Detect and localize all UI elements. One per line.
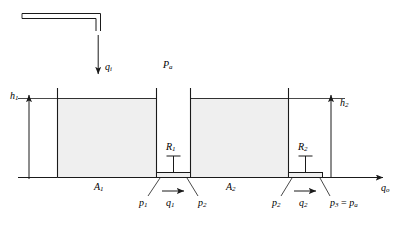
head-1-dimension bbox=[18, 95, 58, 179]
outlet-pipe-2 bbox=[289, 173, 323, 178]
atmospheric-pressure-top-label: Pa bbox=[163, 60, 173, 71]
two-tank-system-diagram: qi Pa h1 h2 A1 A2 R1 R2 p1 q1 p2 p2 q2 p… bbox=[0, 0, 405, 225]
pressure-2-left-label: p2 bbox=[198, 198, 207, 209]
valve-1-symbol bbox=[167, 156, 181, 173]
inlet-pipe bbox=[22, 14, 101, 32]
resistance-2-label: R2 bbox=[298, 142, 308, 153]
flow-2-label: q2 bbox=[299, 198, 308, 209]
head-2-label: h2 bbox=[340, 98, 349, 109]
area-1-label: A1 bbox=[94, 182, 104, 193]
inflow-label: qi bbox=[105, 62, 112, 73]
tank-2-liquid bbox=[191, 99, 289, 178]
connecting-pipe-1 bbox=[157, 173, 191, 178]
head-1-label: h1 bbox=[10, 91, 19, 102]
pressure-leader-lines bbox=[148, 178, 330, 196]
pressure-3-label: p3 = pa bbox=[330, 198, 358, 209]
pressure-2-right-label: p2 bbox=[272, 198, 281, 209]
area-2-label: A2 bbox=[226, 182, 236, 193]
head-2-dimension bbox=[289, 95, 346, 177]
flow-1-label: q1 bbox=[166, 198, 175, 209]
outflow-label: qo bbox=[381, 183, 390, 194]
diagram-canvas bbox=[0, 0, 405, 225]
pressure-1-label: p1 bbox=[139, 198, 148, 209]
tank-1-liquid bbox=[58, 99, 157, 178]
resistance-1-label: R1 bbox=[166, 142, 176, 153]
valve-2-symbol bbox=[299, 156, 313, 173]
